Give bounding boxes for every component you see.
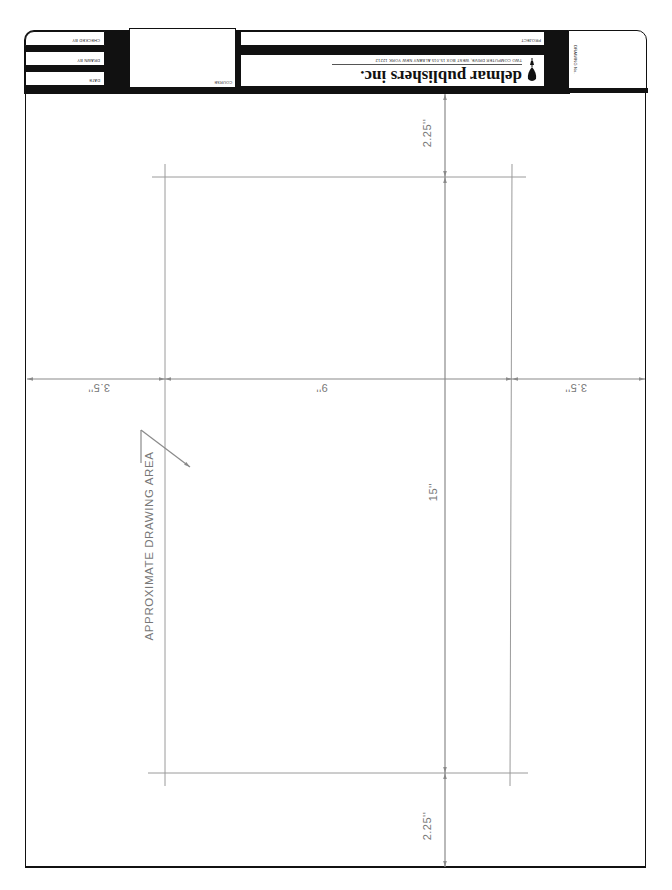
drawing-area-boundary	[148, 164, 528, 786]
bottom-margin-label: 2.25''	[421, 812, 433, 841]
drawing-width-label: 9''	[316, 382, 328, 394]
left-margin-label: 3.5''	[88, 382, 110, 394]
approximate-drawing-area-label: APPROXIMATE DRAWING AREA	[143, 452, 155, 641]
right-margin-label: 3.5''	[565, 382, 587, 394]
dimension-graphics	[0, 0, 672, 890]
drawing-height-label: 15''	[427, 483, 439, 501]
top-margin-label: 2.25''	[421, 119, 433, 148]
